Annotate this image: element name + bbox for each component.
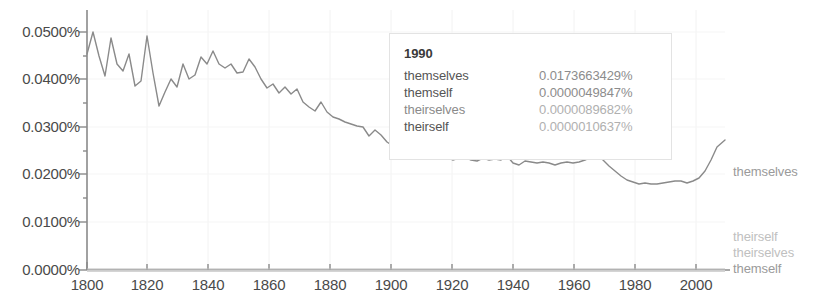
x-tick-1920: 1920 — [436, 276, 469, 293]
x-tick-1960: 1960 — [558, 276, 591, 293]
chart-tooltip: 1990 themselves 0.0173663429% themself 0… — [389, 33, 672, 160]
series-baseline-lines — [87, 269, 725, 272]
x-tick-1880: 1880 — [314, 276, 347, 293]
tooltip-row: themself 0.0000049847% — [404, 84, 657, 101]
y-tick-4: 0.0400% — [0, 79, 80, 80]
y-tick-3: 0.0300% — [0, 127, 80, 128]
tooltip-series-value: 0.0000010637% — [539, 118, 657, 135]
x-tick-1980: 1980 — [619, 276, 652, 293]
x-tick-1840: 1840 — [192, 276, 225, 293]
tooltip-series-name: themselves — [404, 67, 539, 84]
y-tick-0: 0.0000% — [0, 270, 80, 271]
tooltip-series-value: 0.0173663429% — [539, 67, 657, 84]
x-tick-1940: 1940 — [497, 276, 530, 293]
tooltip-series-name: theirselves — [404, 101, 539, 118]
series-label-theirself[interactable]: theirself — [733, 229, 778, 244]
tooltip-series-name: themself — [404, 84, 539, 101]
tooltip-series-value: 0.0000049847% — [539, 84, 657, 101]
y-tick-2: 0.0200% — [0, 174, 80, 175]
tooltip-row: theirself 0.0000010637% — [404, 118, 657, 135]
x-tick-1800: 1800 — [71, 276, 104, 293]
ngram-viewer-chart: 0.0000% 0.0100% 0.0200% 0.0300% 0.0400% … — [0, 0, 836, 303]
x-tick-1900: 1900 — [375, 276, 408, 293]
tooltip-row: theirselves 0.0000089682% — [404, 101, 657, 118]
tooltip-year: 1990 — [404, 46, 657, 61]
series-label-theirselves[interactable]: theirselves — [733, 245, 794, 260]
y-tick-5: 0.0500% — [0, 32, 80, 33]
tooltip-series-name: theirself — [404, 118, 539, 135]
series-label-themself[interactable]: themself — [733, 261, 781, 276]
x-tick-2000: 2000 — [680, 276, 713, 293]
series-label-themselves[interactable]: themselves — [733, 164, 798, 179]
y-axis-ticks — [79, 32, 87, 270]
y-tick-1: 0.0100% — [0, 222, 80, 223]
x-tick-1860: 1860 — [253, 276, 286, 293]
tooltip-series-value: 0.0000089682% — [539, 101, 657, 118]
tooltip-row: themselves 0.0173663429% — [404, 67, 657, 84]
x-tick-1820: 1820 — [131, 276, 164, 293]
